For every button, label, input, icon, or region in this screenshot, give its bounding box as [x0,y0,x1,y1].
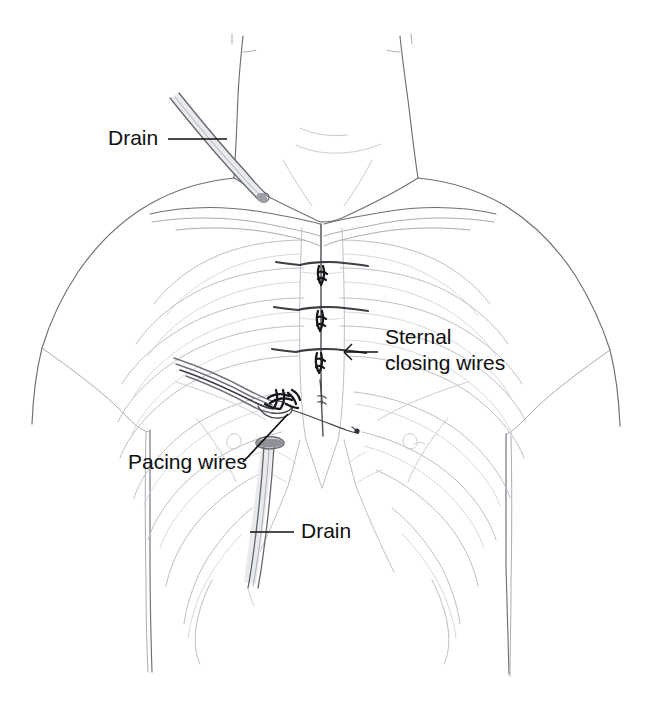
leader-lines [168,139,378,532]
label-pacing-wires: Pacing wires [128,450,247,473]
labels: Drain Sternal closing wires Pacing wires… [108,126,505,542]
anatomical-illustration: Drain Sternal closing wires Pacing wires… [0,0,658,703]
label-sternal-closing-wires-line1: Sternal [385,325,452,348]
chest-diagram-svg: Drain Sternal closing wires Pacing wires… [0,0,658,703]
lower-drain-tube [244,437,284,606]
label-drain-lower: Drain [301,519,351,542]
label-drain-upper: Drain [108,126,158,149]
label-sternal-closing-wires-line2: closing wires [385,351,505,374]
rib-cage-right [340,240,526,664]
clavicles [150,208,496,246]
